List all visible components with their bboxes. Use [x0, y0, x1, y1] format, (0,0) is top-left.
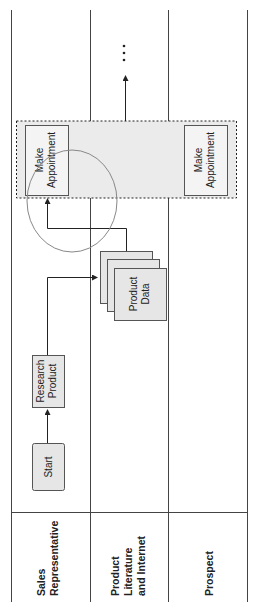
- swimlane-diagram: Sales Representative Product Literature …: [0, 0, 256, 611]
- lane-header-sales: Sales Representative: [35, 521, 60, 596]
- svg-text:Appointment: Appointment: [205, 132, 216, 188]
- svg-text:Make: Make: [193, 147, 204, 172]
- svg-text:Product: Product: [109, 556, 121, 596]
- svg-text:Product: Product: [47, 364, 58, 399]
- svg-text:and Internet: and Internet: [135, 535, 147, 596]
- svg-text:Make: Make: [34, 147, 45, 172]
- svg-text:Data: Data: [140, 283, 151, 305]
- svg-text:Prospect: Prospect: [203, 551, 215, 596]
- lane-header-prospect: Prospect: [203, 551, 215, 596]
- svg-text:Sales: Sales: [35, 568, 47, 596]
- svg-text:Representative: Representative: [48, 521, 60, 596]
- svg-text:Appointment: Appointment: [46, 132, 57, 188]
- svg-text:Literature: Literature: [122, 547, 134, 596]
- lane-header-literature: Product Literature and Internet: [109, 535, 147, 596]
- start-label: Start: [43, 456, 54, 477]
- ellipsis-icon: [123, 45, 126, 62]
- arrow-productdata-appointment: [48, 199, 127, 251]
- svg-text:Product: Product: [128, 277, 139, 312]
- arrow-research-productdata: [48, 278, 98, 356]
- svg-text:Research: Research: [35, 360, 46, 403]
